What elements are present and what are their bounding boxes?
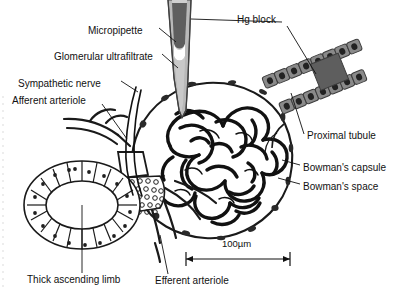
- bowmans-capsule-shape: [132, 80, 294, 241]
- label-proximal-tubule: Proximal tubule: [307, 131, 376, 141]
- label-thick-ascending-limb: Thick ascending limb: [27, 275, 120, 285]
- label-afferent-arteriole: Afferent arteriole: [12, 96, 86, 106]
- label-hg-block: Hg block: [237, 15, 276, 25]
- label-efferent-arteriole: Efferent arteriole: [155, 276, 229, 286]
- label-micropipette: Micropipette: [88, 26, 142, 36]
- anatomical-diagram: [0, 0, 394, 293]
- scale-bar: [186, 252, 290, 266]
- label-bowmans-space: Bowman's space: [303, 182, 378, 192]
- label-sympathetic-nerve: Sympathetic nerve: [18, 79, 101, 89]
- leader-efferent: [160, 235, 168, 274]
- label-ultrafiltrate: Glomerular ultrafiltrate: [54, 52, 153, 62]
- label-bowmans-capsule: Bowman's capsule: [303, 163, 386, 173]
- hg-block-shape: [172, 3, 187, 49]
- scale-bar-label: 100µm: [222, 238, 251, 249]
- figure-canvas: Micropipette Glomerular ultrafiltrate Sy…: [0, 0, 394, 293]
